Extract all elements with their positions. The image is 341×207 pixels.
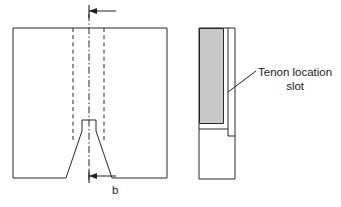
dimension-label-width: b [112, 184, 118, 198]
front-view-outline [13, 28, 167, 178]
annotation-line-1: Tenon location [258, 66, 332, 78]
technical-drawing [0, 0, 341, 207]
annotation-line-2: slot [258, 80, 332, 94]
drawing-canvas: Tenon location slot b [0, 0, 341, 207]
tenon-slot-annotation: Tenon location slot [258, 66, 332, 93]
front-elevation-view [13, 14, 167, 180]
side-elevation-view [199, 28, 235, 179]
tenon-block-shaded [200, 29, 224, 124]
